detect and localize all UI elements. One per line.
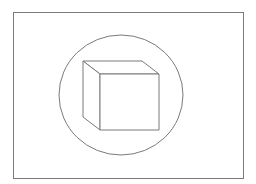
diagram-canvas <box>0 0 256 184</box>
cube-front-face <box>100 74 159 130</box>
